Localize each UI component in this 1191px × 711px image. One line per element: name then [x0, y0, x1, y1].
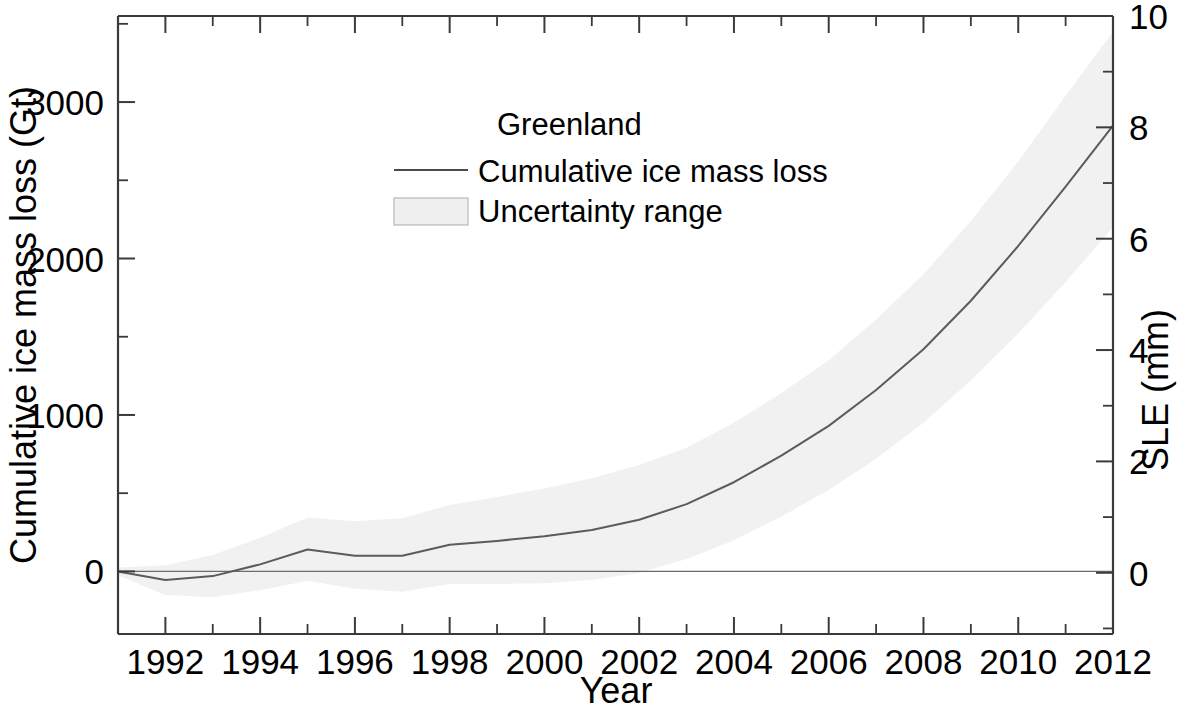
- y2-tick-label: 0: [1129, 554, 1148, 593]
- right-axis-title: SLE (mm): [1135, 309, 1176, 471]
- legend-title: Greenland: [497, 107, 642, 142]
- bottom-axis-title: Year: [580, 670, 653, 711]
- x-tick-label: 1998: [411, 642, 489, 681]
- x-tick-label: 1994: [221, 642, 299, 681]
- x-tick-label: 1996: [316, 642, 394, 681]
- x-tick-label: 2006: [790, 642, 868, 681]
- y2-tick-label: 6: [1129, 220, 1148, 259]
- left-axis-title: Cumulative ice mass loss (Gt): [3, 86, 44, 564]
- x-tick-label: 2010: [979, 642, 1057, 681]
- ice-mass-loss-chart: 1992199419961998200020022004200620082010…: [0, 0, 1191, 711]
- legend-item-label-0: Cumulative ice mass loss: [478, 154, 828, 189]
- y-tick-label: 0: [85, 552, 104, 591]
- legend-item-label-1: Uncertainty range: [478, 194, 723, 229]
- legend-box-swatch: [394, 198, 468, 225]
- x-tick-label: 2012: [1074, 642, 1152, 681]
- figure-container: 1992199419961998200020022004200620082010…: [0, 0, 1191, 711]
- x-tick-label: 2004: [695, 642, 773, 681]
- x-tick-label: 2000: [505, 642, 583, 681]
- y2-tick-label: 8: [1129, 108, 1148, 147]
- y2-tick-label: 10: [1129, 0, 1168, 36]
- x-tick-label: 1992: [126, 642, 204, 681]
- x-tick-label: 2008: [885, 642, 963, 681]
